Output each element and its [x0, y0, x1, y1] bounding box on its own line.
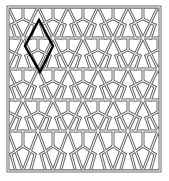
figure — [0, 0, 169, 181]
geometric-lattice — [0, 0, 169, 181]
